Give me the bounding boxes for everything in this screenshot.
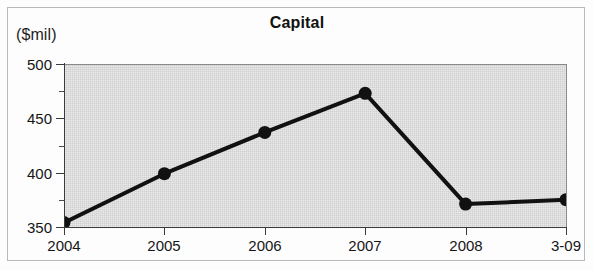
data-point-2008: [459, 198, 472, 211]
chart-title: Capital: [0, 14, 594, 32]
capital-series-line: [64, 93, 566, 222]
y-tick-450: [56, 118, 65, 119]
data-point-2007: [359, 87, 372, 100]
y-tick-label-450: 450: [8, 111, 52, 126]
x-tick-label-2007: 2007: [330, 238, 400, 253]
data-point-3-09: [560, 193, 567, 206]
plot-area: [64, 64, 567, 228]
data-point-2006: [258, 126, 271, 139]
x-tick-label-2004: 2004: [29, 238, 99, 253]
x-tick-2008: [466, 228, 467, 235]
y-minor-tick-375: [59, 200, 65, 201]
y-tick-500: [56, 64, 65, 65]
capital-series-markers: [64, 87, 566, 228]
y-tick-label-400: 400: [8, 166, 52, 181]
x-tick-2006: [265, 228, 266, 235]
x-tick-label-2008: 2008: [431, 238, 501, 253]
y-tick-400: [56, 173, 65, 174]
y-minor-tick-425: [59, 146, 65, 147]
x-tick-2004: [64, 228, 65, 235]
x-axis-line: [63, 227, 567, 228]
y-tick-label-500: 500: [8, 57, 52, 72]
x-tick-label-2005: 2005: [129, 238, 199, 253]
x-tick-2007: [365, 228, 366, 235]
x-tick-3-09: [566, 228, 567, 235]
y-minor-tick-475: [59, 91, 65, 92]
y-tick-label-350: 350: [8, 220, 52, 235]
x-tick-2005: [164, 228, 165, 235]
x-tick-label-3-09: 3-09: [531, 238, 594, 253]
chart-page: ($mil) Capital 350400450500 200420052006…: [0, 0, 594, 270]
x-tick-label-2006: 2006: [230, 238, 300, 253]
data-line-chart: [64, 65, 566, 228]
data-point-2005: [158, 167, 171, 180]
